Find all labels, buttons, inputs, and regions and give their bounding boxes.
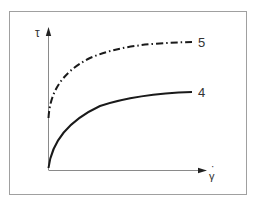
x-axis-label-dot: ·	[211, 161, 214, 172]
curve-5-label: 5	[198, 35, 205, 50]
x-axis	[49, 168, 208, 173]
curve-4	[49, 92, 193, 168]
y-axis-arrow-icon	[46, 27, 51, 36]
flow-curve-diagram: τ γ · 5 4	[0, 0, 257, 202]
x-axis-arrow-icon	[198, 168, 207, 173]
y-axis	[46, 27, 51, 170]
y-axis-label: τ	[35, 26, 40, 40]
curve-5	[49, 42, 193, 118]
curve-4-label: 4	[198, 85, 205, 100]
